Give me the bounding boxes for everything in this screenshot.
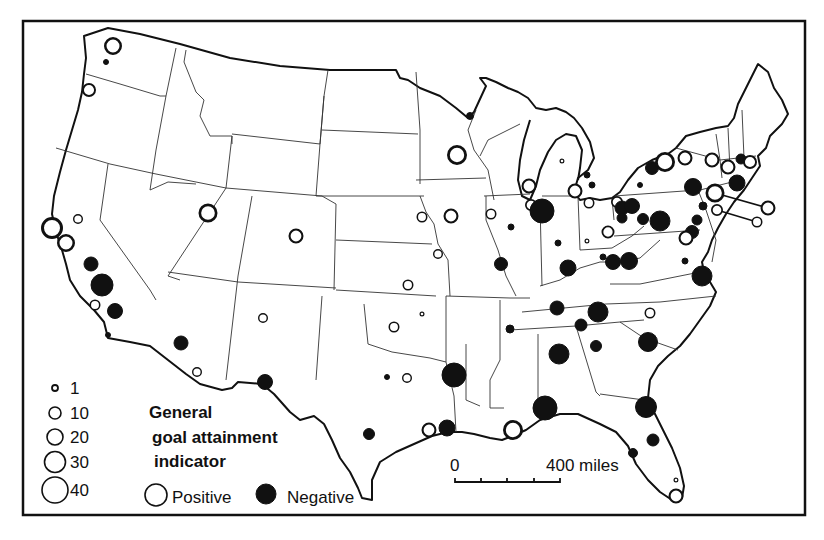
negative-indicator-circle — [495, 258, 508, 271]
positive-indicator-circle — [434, 250, 443, 259]
negative-indicator-circle — [692, 215, 702, 225]
scale-start-label: 0 — [450, 456, 459, 475]
positive-indicator-circle — [445, 210, 458, 223]
legend-title-line-3: indicator — [154, 452, 226, 471]
legend-size-label: 40 — [70, 481, 89, 500]
positive-indicator-circle — [58, 235, 73, 250]
positive-indicator-circle — [744, 156, 756, 168]
positive-indicator-circle — [90, 300, 99, 309]
negative-indicator-circle — [692, 266, 712, 286]
positive-indicator-circle — [523, 180, 536, 193]
legend-size-scale: 110203040 — [42, 379, 89, 503]
positive-indicator-circle — [706, 154, 719, 167]
negative-symbol-icon — [256, 484, 276, 504]
negative-indicator-circle — [506, 325, 514, 333]
negative-indicator-circle — [650, 211, 670, 231]
positive-indicator-circle — [290, 230, 303, 243]
positive-indicator-circle — [389, 322, 398, 331]
legend: 110203040 General goal attainment indica… — [42, 379, 354, 507]
negative-indicator-circle — [467, 113, 474, 120]
positive-indicator-circle — [645, 308, 654, 317]
negative-indicator-circle — [530, 199, 554, 223]
positive-indicator-circle — [403, 374, 412, 383]
positive-indicator-circle — [423, 424, 436, 437]
negative-indicator-circle — [258, 375, 273, 390]
negative-indicator-circle — [84, 257, 98, 271]
negative-indicator-circle — [575, 319, 587, 331]
positive-indicator-circle — [403, 280, 412, 289]
negative-indicator-circle — [588, 302, 608, 322]
negative-indicator-circle — [729, 175, 745, 191]
positive-indicator-circle — [584, 198, 593, 207]
legend-title-line-2: goal attainment — [152, 428, 278, 447]
positive-indicator-circle — [486, 209, 495, 218]
negative-indicator-circle — [606, 255, 621, 270]
positive-indicator-circle — [752, 217, 761, 226]
negative-indicator-circle — [621, 253, 638, 270]
negative-indicator-circle — [639, 333, 658, 352]
negative-indicator-circle — [636, 397, 657, 418]
legend-size-label: 20 — [70, 428, 89, 447]
negative-indicator-circle — [508, 224, 514, 230]
negative-indicator-circle — [533, 396, 557, 420]
positive-indicator-circle — [74, 215, 83, 224]
positive-indicator-circle — [674, 478, 678, 482]
negative-indicator-circle — [682, 258, 688, 264]
legend-size-circle-icon — [47, 429, 63, 445]
positive-indicator-circle — [200, 205, 216, 221]
positive-indicator-circle — [670, 490, 683, 503]
positive-indicator-circle — [712, 205, 722, 215]
legend-title-line-1: General — [149, 403, 212, 422]
negative-indicator-circle — [584, 172, 590, 178]
positive-indicator-circle — [679, 152, 692, 165]
negative-indicator-circle — [617, 213, 627, 223]
negative-indicator-circle — [104, 60, 109, 65]
scale-end-label: 400 miles — [546, 456, 619, 475]
negative-indicator-circle — [600, 254, 606, 260]
positive-indicator-circle — [420, 312, 424, 316]
negative-indicator-circle — [685, 179, 702, 196]
legend-negative-label: Negative — [287, 488, 354, 507]
positive-indicator-circle — [105, 38, 120, 53]
negative-indicator-circle — [555, 240, 561, 246]
positive-indicator-circle — [259, 314, 268, 323]
negative-indicator-circle — [442, 363, 466, 387]
negative-indicator-circle — [589, 182, 595, 188]
negative-indicator-circle — [638, 183, 643, 188]
positive-indicator-circle — [707, 185, 723, 201]
negative-indicator-circle — [439, 420, 455, 436]
legend-positive-label: Positive — [172, 488, 232, 507]
scale-bar-line — [455, 478, 560, 482]
legend-size-label: 30 — [70, 453, 89, 472]
positive-indicator-circle — [448, 146, 465, 163]
positive-symbol-icon — [145, 484, 167, 506]
negative-indicator-circle — [174, 336, 188, 350]
negative-indicator-circle — [549, 344, 569, 364]
legend-size-circle-icon — [42, 477, 68, 503]
positive-indicator-circle — [722, 161, 735, 174]
negative-indicator-circle — [364, 429, 375, 440]
positive-indicator-circle — [656, 153, 673, 170]
map-frame — [23, 21, 805, 515]
negative-indicator-circle — [638, 214, 649, 225]
negative-indicator-circle — [591, 341, 602, 352]
positive-indicator-circle — [417, 212, 426, 221]
positive-indicator-circle — [762, 202, 775, 215]
legend-size-circle-icon — [52, 385, 58, 391]
positive-indicator-circle — [585, 239, 589, 243]
goal-attainment-map: 110203040 General goal attainment indica… — [0, 0, 824, 540]
positive-indicator-circle — [569, 185, 582, 198]
negative-indicator-circle — [91, 274, 113, 296]
negative-indicator-circle — [106, 333, 111, 338]
negative-indicator-circle — [550, 301, 564, 315]
negative-indicator-circle — [699, 202, 707, 210]
legend-size-circle-icon — [45, 452, 66, 473]
legend-size-circle-icon — [49, 407, 61, 419]
negative-indicator-circle — [647, 434, 659, 446]
negative-indicator-circle — [108, 304, 123, 319]
positive-indicator-circle — [504, 421, 521, 438]
positive-indicator-circle — [680, 232, 693, 245]
negative-indicator-circle — [625, 199, 640, 214]
positive-indicator-circle — [83, 84, 95, 96]
positive-indicator-circle — [602, 226, 613, 237]
